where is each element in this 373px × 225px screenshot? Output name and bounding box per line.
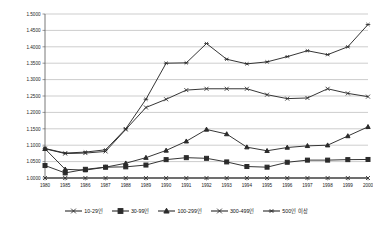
data-point-marker <box>225 160 229 164</box>
data-point-marker <box>245 62 250 65</box>
data-point-marker <box>285 160 289 164</box>
legend-item[interactable]: 300-499인 <box>211 207 254 215</box>
legend-item[interactable]: 30-99인 <box>112 207 150 215</box>
data-point-marker <box>366 125 370 129</box>
data-series-layer <box>43 23 371 180</box>
data-point-marker <box>366 157 370 161</box>
legend-label: 10-29인 <box>84 207 103 215</box>
data-point-marker <box>285 55 290 58</box>
data-point-marker <box>245 165 249 169</box>
data-point-marker <box>144 98 149 101</box>
y-tick-label: 1.5000 <box>26 12 40 17</box>
x-tick-label: 1987 <box>100 183 111 188</box>
data-point-marker <box>346 134 350 138</box>
y-tick-label: 1.1500 <box>26 127 40 132</box>
data-point-marker <box>224 58 229 61</box>
chart-svg: 1.00001.05001.10001.15001.20001.25001.30… <box>0 0 373 195</box>
data-point-marker <box>326 158 330 162</box>
data-point-marker <box>164 148 168 152</box>
data-point-marker <box>265 148 269 152</box>
data-point-marker <box>346 158 350 162</box>
line-chart: 1.00001.05001.10001.15001.20001.25001.30… <box>0 0 373 225</box>
legend-label: 500인 이상 <box>282 207 307 215</box>
legend-item[interactable]: 10-29인 <box>65 207 103 215</box>
legend-item[interactable]: 100-299인 <box>158 207 201 215</box>
data-point-marker <box>43 164 47 168</box>
data-series <box>43 156 370 175</box>
legend-marker-square-icon <box>112 207 129 215</box>
series-line <box>45 127 368 170</box>
data-point-marker <box>204 127 208 131</box>
data-point-marker <box>366 23 371 26</box>
x-tick-label: 1980 <box>40 183 51 188</box>
data-point-marker <box>269 209 275 213</box>
data-point-marker <box>305 158 309 162</box>
legend-label: 100-299인 <box>177 207 201 215</box>
x-tick-label: 1995 <box>262 183 273 188</box>
x-tick-label: 2000 <box>363 183 373 188</box>
x-tick-label: 1986 <box>80 183 91 188</box>
data-point-marker <box>164 208 169 213</box>
legend-marker-asterisk-icon <box>263 207 280 215</box>
x-tick-label: 1988 <box>121 183 132 188</box>
data-point-marker <box>285 145 289 149</box>
y-tick-label: 1.4500 <box>26 28 40 33</box>
data-point-marker <box>204 42 209 45</box>
gridlines <box>43 14 369 178</box>
y-axis-tick-labels: 1.00001.05001.10001.15001.20001.25001.30… <box>26 12 40 181</box>
data-point-marker <box>224 132 228 136</box>
legend-label: 300-499인 <box>230 207 254 215</box>
x-tick-label: 1991 <box>181 183 192 188</box>
x-tick-label: 1998 <box>323 183 334 188</box>
x-tick-label: 1996 <box>282 183 293 188</box>
data-point-marker <box>184 61 189 64</box>
data-point-marker <box>245 145 249 149</box>
y-tick-label: 1.0500 <box>26 159 40 164</box>
data-point-marker <box>184 156 188 160</box>
x-tick-label: 1999 <box>343 183 354 188</box>
data-point-marker <box>164 62 169 65</box>
data-point-marker <box>205 156 209 160</box>
y-tick-label: 1.4000 <box>26 45 40 50</box>
legend-marker-triangle-icon <box>158 207 175 215</box>
plot-area: 1.00001.05001.10001.15001.20001.25001.30… <box>0 0 373 195</box>
y-tick-label: 1.2500 <box>26 94 40 99</box>
data-point-marker <box>164 158 168 162</box>
data-point-marker <box>265 165 269 169</box>
legend-item[interactable]: 500인 이상 <box>263 207 307 215</box>
y-tick-label: 1.3000 <box>26 77 40 82</box>
data-point-marker <box>63 151 68 154</box>
x-tick-label: 1985 <box>60 183 71 188</box>
y-tick-label: 1.1000 <box>26 143 40 148</box>
x-tick-label: 1994 <box>242 183 253 188</box>
y-tick-label: 1.2000 <box>26 110 40 115</box>
series-line <box>45 89 368 154</box>
legend-marker-x-icon <box>211 207 228 215</box>
data-series <box>43 125 370 172</box>
legend-label: 30-99인 <box>131 207 150 215</box>
x-tick-label: 1993 <box>222 183 233 188</box>
data-point-marker <box>144 155 148 159</box>
data-point-marker <box>63 171 67 175</box>
x-tick-label: 1989 <box>141 183 152 188</box>
data-point-marker <box>144 105 148 109</box>
chart-legend: 10-29인30-99인100-299인300-499인500인 이상 <box>0 196 373 225</box>
data-point-marker <box>325 143 329 147</box>
data-point-marker <box>346 45 351 48</box>
y-tick-label: 1.3500 <box>26 61 40 66</box>
data-point-marker <box>305 49 310 52</box>
data-point-marker <box>164 97 168 101</box>
data-point-marker <box>305 144 309 148</box>
data-point-marker <box>124 165 128 169</box>
legend-marker-x-icon <box>65 207 82 215</box>
y-tick-label: 1.0000 <box>26 176 40 181</box>
data-point-marker <box>144 163 148 167</box>
data-point-marker <box>184 139 188 143</box>
x-tick-label: 1990 <box>161 183 172 188</box>
x-tick-label: 1997 <box>302 183 313 188</box>
data-point-marker <box>118 208 123 213</box>
x-axis-tick-labels: 1980198519861987198819891990199119921993… <box>40 178 373 188</box>
x-tick-label: 1992 <box>201 183 212 188</box>
data-point-marker <box>325 53 330 56</box>
